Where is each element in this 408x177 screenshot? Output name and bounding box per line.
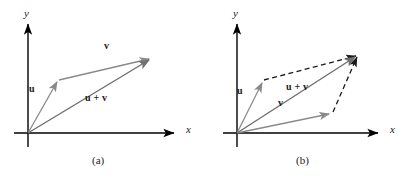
dashed-translated-v-b: [264, 56, 356, 80]
vector-u-plus-v-label-b: u + v: [286, 82, 308, 92]
vector-addition-figure: x y u v u + v (a): [0, 0, 408, 177]
vector-u-label-a: u: [29, 84, 35, 94]
panel-a-triangle-law: x y u v u + v (a): [0, 0, 204, 177]
panel-b-parallelogram-law: x y u v u + v (b): [204, 0, 408, 177]
x-axis-label-a: x: [186, 124, 191, 135]
y-axis-label-b: y: [233, 8, 238, 19]
caption-b: (b): [296, 155, 309, 166]
dashed-translated-u-b: [333, 57, 357, 112]
caption-a: (a): [92, 155, 104, 166]
vector-u-label-b: u: [237, 86, 243, 96]
vector-v-a: [59, 59, 149, 80]
vector-v-label-a: v: [104, 41, 109, 51]
y-axis-label-a: y: [24, 8, 29, 19]
vector-u-plus-v-b: [237, 57, 355, 133]
vector-u-plus-v-label-a: u + v: [85, 93, 107, 103]
x-axis-label-b: x: [390, 124, 395, 135]
vector-v-label-b: v: [278, 98, 283, 108]
